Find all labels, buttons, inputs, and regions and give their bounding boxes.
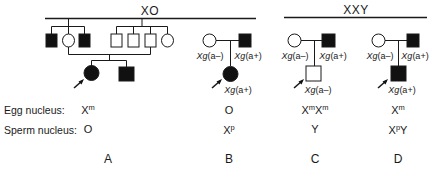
affected-male-icon xyxy=(239,34,251,47)
xg-label-d-father: Xg(a+) xyxy=(401,51,428,61)
unaffected-male-icon xyxy=(128,34,139,47)
pedigree-d xyxy=(372,34,419,88)
egg-genotype-b: O xyxy=(225,103,234,116)
sperm-genotype-c: Y xyxy=(311,123,318,135)
panel-label-d: D xyxy=(394,152,403,166)
panel-label-b: B xyxy=(225,152,233,166)
sperm-nucleus-label: Sperm nucleus: xyxy=(4,124,77,136)
unaffected-female-icon xyxy=(372,34,385,47)
unaffected-female-icon xyxy=(203,34,216,47)
egg-nucleus-label: Egg nucleus: xyxy=(4,104,65,116)
pedigree-b xyxy=(203,34,251,88)
sperm-genotype-d: XpY xyxy=(389,123,408,136)
group-label-xo: XO xyxy=(141,4,159,18)
egg-genotype-c: XmXm xyxy=(301,103,328,116)
unaffected-female-icon xyxy=(288,34,301,47)
unaffected-female-icon xyxy=(63,34,75,47)
xg-label-c-mother: Xg(a–) xyxy=(281,51,308,61)
xg-label-c-proband: Xg(a–) xyxy=(304,85,331,95)
proband-affected-male-icon xyxy=(391,66,406,81)
panel-label-c: C xyxy=(311,152,320,166)
xg-label-b-proband: Xg(a+) xyxy=(224,85,251,95)
pedigree-c xyxy=(288,34,335,88)
xg-label-c-father: Xg(a+) xyxy=(319,51,346,61)
group-label-xxy: XXY xyxy=(343,3,369,17)
sperm-genotype-a: O xyxy=(84,123,93,135)
sperm-genotype-b: Xp xyxy=(223,123,235,136)
xg-label-b-father: Xg(a+) xyxy=(234,51,261,61)
affected-male-icon xyxy=(79,34,90,47)
affected-male-icon xyxy=(322,34,335,47)
proband-affected-female-icon xyxy=(223,67,238,82)
xg-label-b-mother: Xg(a–) xyxy=(196,51,223,61)
unaffected-male-icon xyxy=(111,34,122,47)
pedigree-a xyxy=(46,19,174,89)
egg-genotype-d: Xm xyxy=(391,103,405,116)
egg-genotype-a: Xm xyxy=(81,103,95,116)
pedigree-diagram xyxy=(0,0,431,176)
unaffected-male-icon xyxy=(145,34,156,47)
unaffected-female-icon xyxy=(162,34,174,47)
affected-male-icon xyxy=(407,34,419,47)
xg-label-d-mother: Xg(a–) xyxy=(366,51,393,61)
affected-male-icon xyxy=(119,67,134,81)
xg-label-d-proband: Xg(a+) xyxy=(388,85,415,95)
proband-unaffected-male-icon xyxy=(306,66,321,81)
proband-affected-female-icon xyxy=(84,66,99,81)
affected-male-icon xyxy=(46,34,57,47)
panel-label-a: A xyxy=(104,152,112,166)
